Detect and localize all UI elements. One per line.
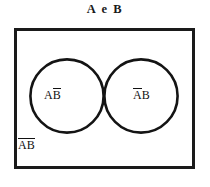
region-label-a-not-b: AB	[44, 88, 61, 102]
region-label-not-a-not-b: AB	[18, 138, 35, 152]
region-label-not-a-b-suffix: B	[142, 88, 150, 102]
venn-diagram-figure: A e B AB AB AB	[0, 0, 210, 187]
venn-diagram-canvas	[0, 0, 210, 187]
region-label-a-not-b-prefix: A	[44, 88, 53, 102]
region-label-not-a-not-b-overlined: AB	[18, 138, 35, 152]
region-label-not-a-b-overlined: A	[133, 88, 142, 102]
region-label-a-not-b-overlined: B	[53, 88, 61, 102]
region-label-not-a-b: AB	[133, 88, 150, 102]
